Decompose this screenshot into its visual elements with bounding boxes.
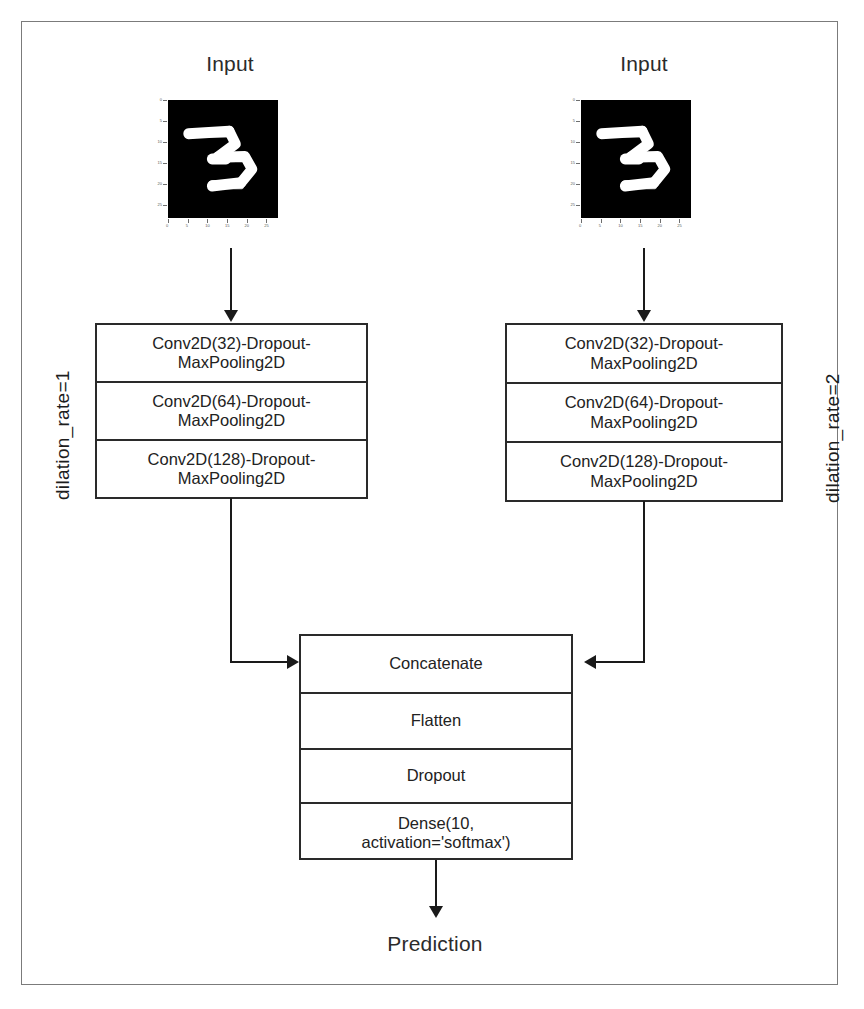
digit-y-axis-left: 0510152025 — [154, 100, 168, 218]
digit-y-tick-label-left: 5 — [160, 119, 162, 123]
conv-layer-32-right-line1: Conv2D(32)-Dropout- — [513, 334, 775, 353]
conv-layer-64-left-line2: MaxPooling2D — [103, 411, 360, 430]
layer-dense-line2: activation='softmax') — [307, 833, 565, 852]
arrow-left-branch-into-concat — [230, 661, 288, 663]
digit-y-tick-left — [163, 184, 167, 185]
digit-y-tick-right — [576, 184, 580, 185]
digit-y-tick-left — [163, 205, 167, 206]
conv-layer-128-right-line2: MaxPooling2D — [513, 472, 775, 491]
conv-layer-64-left: Conv2D(64)-Dropout- MaxPooling2D — [97, 383, 366, 441]
digit-y-axis-right: 0510152025 — [567, 100, 581, 218]
conv-layer-128-right: Conv2D(128)-Dropout- MaxPooling2D — [507, 443, 781, 500]
input-label-left: Input — [180, 52, 280, 76]
digit-y-tick-label-left: 10 — [158, 140, 162, 144]
digit-x-tick-label-right: 5 — [599, 224, 601, 228]
conv-layer-64-right-line1: Conv2D(64)-Dropout- — [513, 393, 775, 412]
digit-y-tick-label-left: 15 — [158, 161, 162, 165]
digit-y-tick-right — [576, 121, 580, 122]
digit-y-tick-label-right: 10 — [571, 140, 575, 144]
digit-x-tick-label-left: 0 — [166, 224, 168, 228]
digit-x-tick-left — [188, 219, 189, 223]
layer-concatenate-label: Concatenate — [307, 654, 565, 673]
digit-x-tick-label-right: 20 — [658, 224, 662, 228]
digit-y-tick-label-left: 25 — [158, 203, 162, 207]
digit-plot-area-left — [168, 100, 278, 218]
layer-flatten-label: Flatten — [307, 711, 565, 730]
conv-layer-128-left-line1: Conv2D(128)-Dropout- — [103, 450, 360, 469]
classifier-block: Concatenate Flatten Dropout Dense(10, ac… — [299, 634, 573, 860]
conv-block-left: Conv2D(32)-Dropout- MaxPooling2D Conv2D(… — [95, 323, 368, 499]
prediction-label: Prediction — [365, 932, 505, 956]
conv-layer-32-left: Conv2D(32)-Dropout- MaxPooling2D — [97, 325, 366, 383]
conv-layer-64-right: Conv2D(64)-Dropout- MaxPooling2D — [507, 384, 781, 443]
digit-x-tick-label-right: 15 — [638, 224, 642, 228]
arrow-input-to-conv-right — [643, 248, 645, 311]
mnist-input-image-left: 0510152025 0510152025 — [154, 100, 294, 235]
dilation-rate-label-left: dilation_rate=1 — [52, 370, 74, 500]
conv-layer-128-left-line2: MaxPooling2D — [103, 469, 360, 488]
digit-y-tick-right — [576, 142, 580, 143]
layer-dropout: Dropout — [301, 750, 571, 804]
digit-x-tick-left — [168, 219, 169, 223]
arrowhead-input-to-conv-right — [637, 310, 651, 322]
mnist-input-image-right: 0510152025 0510152025 — [567, 100, 707, 235]
digit-x-tick-right — [601, 219, 602, 223]
digit-glyph-right — [581, 100, 691, 218]
layer-dropout-label: Dropout — [307, 766, 565, 785]
digit-x-axis-left: 0510152025 — [168, 218, 278, 232]
conv-layer-32-right-line2: MaxPooling2D — [513, 354, 775, 373]
dilation-rate-label-right: dilation_rate=2 — [822, 373, 844, 503]
digit-y-tick-label-right: 15 — [571, 161, 575, 165]
arrowhead-right-into-concat — [584, 655, 596, 669]
layer-concatenate: Concatenate — [301, 636, 571, 694]
digit-x-tick-right — [581, 219, 582, 223]
layer-dense: Dense(10, activation='softmax') — [301, 804, 571, 862]
digit-y-tick-label-left: 0 — [160, 98, 162, 102]
digit-x-tick-label-left: 25 — [264, 224, 268, 228]
conv-layer-32-left-line2: MaxPooling2D — [103, 353, 360, 372]
arrow-right-branch-down — [643, 501, 645, 663]
digit-x-axis-right: 0510152025 — [581, 218, 691, 232]
conv-block-right: Conv2D(32)-Dropout- MaxPooling2D Conv2D(… — [505, 323, 783, 502]
digit-x-tick-label-left: 15 — [225, 224, 229, 228]
digit-y-tick-label-right: 0 — [573, 98, 575, 102]
layer-dense-line1: Dense(10, — [307, 814, 565, 833]
arrow-left-branch-down — [230, 498, 232, 663]
digit-y-tick-label-right: 5 — [573, 119, 575, 123]
arrowhead-dense-to-prediction — [429, 906, 443, 918]
arrow-input-to-conv-left — [230, 248, 232, 311]
digit-y-tick-right — [576, 100, 580, 101]
digit-y-tick-label-right: 20 — [571, 182, 575, 186]
digit-glyph-left — [168, 100, 278, 218]
arrow-dense-to-prediction — [435, 860, 437, 908]
digit-y-tick-label-right: 25 — [571, 203, 575, 207]
conv-layer-64-right-line2: MaxPooling2D — [513, 413, 775, 432]
digit-x-tick-label-left: 20 — [245, 224, 249, 228]
digit-y-tick-right — [576, 205, 580, 206]
arrow-right-branch-into-concat — [596, 661, 645, 663]
conv-layer-128-left: Conv2D(128)-Dropout- MaxPooling2D — [97, 441, 366, 497]
digit-x-tick-label-left: 5 — [186, 224, 188, 228]
digit-x-tick-label-right: 0 — [579, 224, 581, 228]
conv-layer-128-right-line1: Conv2D(128)-Dropout- — [513, 452, 775, 471]
conv-layer-64-left-line1: Conv2D(64)-Dropout- — [103, 392, 360, 411]
arrowhead-input-to-conv-left — [224, 310, 238, 322]
digit-y-tick-left — [163, 163, 167, 164]
input-label-right: Input — [594, 52, 694, 76]
digit-y-tick-left — [163, 142, 167, 143]
digit-y-tick-left — [163, 100, 167, 101]
digit-y-tick-right — [576, 163, 580, 164]
digit-plot-area-right — [581, 100, 691, 218]
diagram-canvas: Input 0510152025 0510152025 — [0, 0, 864, 1009]
digit-x-tick-label-left: 10 — [205, 224, 209, 228]
digit-x-tick-label-right: 10 — [618, 224, 622, 228]
layer-flatten: Flatten — [301, 694, 571, 750]
digit-y-tick-label-left: 20 — [158, 182, 162, 186]
conv-layer-32-left-line1: Conv2D(32)-Dropout- — [103, 334, 360, 353]
conv-layer-32-right: Conv2D(32)-Dropout- MaxPooling2D — [507, 325, 781, 384]
digit-y-tick-left — [163, 121, 167, 122]
digit-x-tick-label-right: 25 — [677, 224, 681, 228]
arrowhead-left-into-concat — [287, 655, 299, 669]
